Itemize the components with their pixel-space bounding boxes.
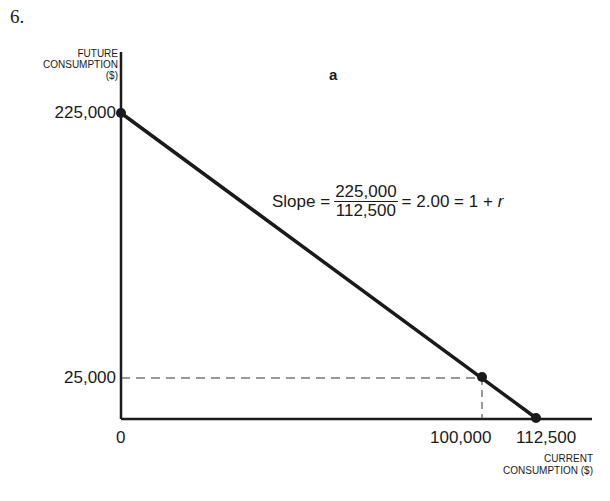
plot-area (0, 0, 610, 501)
budget-line (121, 113, 536, 418)
point-marker (477, 372, 487, 382)
point-marker (116, 108, 126, 118)
point-marker (531, 413, 541, 423)
